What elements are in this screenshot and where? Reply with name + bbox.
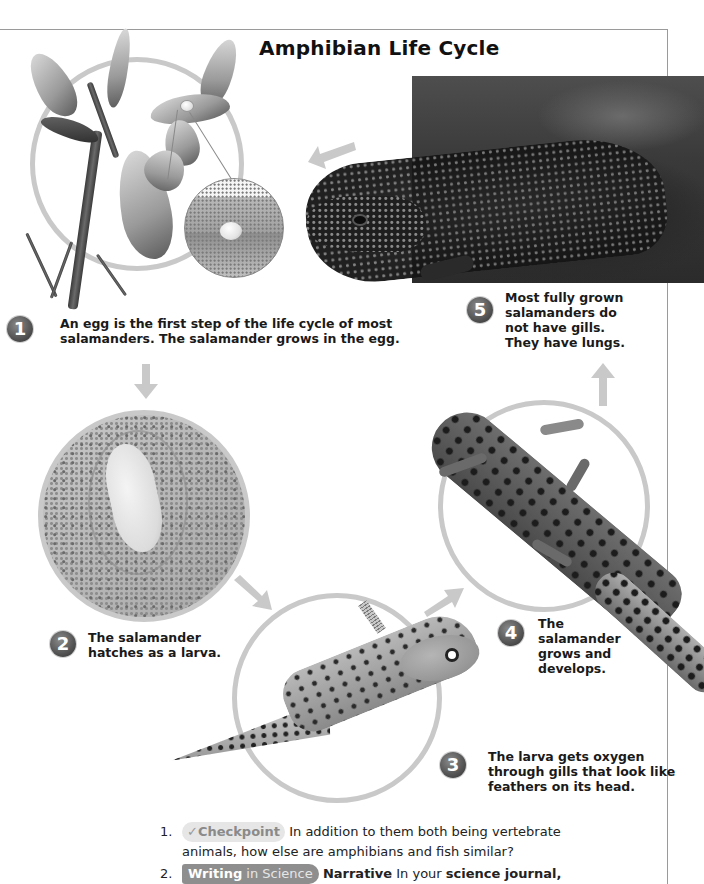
caption-line: The bbox=[538, 616, 621, 631]
caption-line: develops. bbox=[538, 661, 621, 676]
stage-3-badge: 3 bbox=[440, 752, 466, 778]
writing-tag-bold: Writing bbox=[188, 866, 242, 881]
question-1-text: In addition to them both being vertebrat… bbox=[289, 824, 561, 839]
caption-line: The salamander bbox=[88, 630, 221, 645]
caption-line: salamander bbox=[538, 631, 621, 646]
question-1: ✓Checkpoint In addition to them both bei… bbox=[182, 822, 662, 862]
question-1-line-1: ✓Checkpoint In addition to them both bei… bbox=[182, 822, 662, 842]
stage-2-caption: The salamander hatches as a larva. bbox=[88, 630, 221, 660]
egg-magnified bbox=[220, 222, 242, 240]
stage-4-badge: 4 bbox=[498, 620, 524, 646]
adult-salamander-eye bbox=[352, 214, 368, 226]
egg-small bbox=[180, 100, 194, 112]
arrow-left-icon bbox=[306, 138, 356, 170]
writing-in-science-tag: Writing in Science bbox=[182, 864, 319, 884]
question-1-number: 1. bbox=[160, 824, 172, 839]
frame-top-border bbox=[0, 29, 668, 30]
checkpoint-label: Checkpoint bbox=[198, 824, 280, 839]
question-2: Writing in Science Narrative In your sci… bbox=[182, 864, 662, 884]
caption-line: hatches as a larva. bbox=[88, 645, 221, 660]
caption-line: The larva gets oxygen bbox=[488, 749, 675, 764]
caption-line: An egg is the first step of the life cyc… bbox=[60, 316, 400, 331]
adult-salamander-head bbox=[306, 196, 426, 252]
caption-line: salamanders. The salamander grows in the… bbox=[60, 331, 400, 346]
arrow-up-icon bbox=[590, 362, 616, 406]
caption-line: They have lungs. bbox=[505, 335, 625, 350]
page-title: Amphibian Life Cycle bbox=[259, 36, 499, 60]
question-1-line-2: animals, how else are amphibians and fis… bbox=[182, 842, 662, 862]
stage-1-caption: An egg is the first step of the life cyc… bbox=[60, 316, 400, 346]
stage-5-badge: 5 bbox=[467, 297, 493, 323]
larva-eye bbox=[445, 648, 459, 662]
writing-tag-light: in Science bbox=[246, 866, 312, 881]
caption-line: feathers on its head. bbox=[488, 779, 675, 794]
caption-line: salamanders do bbox=[505, 305, 625, 320]
narrative-label: Narrative bbox=[323, 866, 392, 881]
arrow-up-right-icon bbox=[422, 586, 466, 618]
stage-5-caption: Most fully grown salamanders do not have… bbox=[505, 290, 625, 350]
checkmark-icon: ✓ bbox=[187, 824, 198, 839]
caption-line: Most fully grown bbox=[505, 290, 625, 305]
checkpoint-tag: ✓Checkpoint bbox=[182, 822, 285, 842]
stage-4-caption: The salamander grows and develops. bbox=[538, 616, 621, 676]
stage-2-badge: 2 bbox=[50, 631, 76, 657]
stage-3-caption: The larva gets oxygen through gills that… bbox=[488, 749, 675, 794]
question-2-number: 2. bbox=[160, 866, 172, 881]
caption-line: through gills that look like bbox=[488, 764, 675, 779]
stage-1-badge: 1 bbox=[7, 316, 33, 342]
question-2-text: In your bbox=[396, 866, 441, 881]
arrow-down-right-icon bbox=[232, 574, 274, 612]
caption-line: not have gills. bbox=[505, 320, 625, 335]
caption-line: grows and bbox=[538, 646, 621, 661]
science-journal-text: science journal, bbox=[446, 866, 562, 881]
arrow-down-icon bbox=[133, 364, 159, 400]
